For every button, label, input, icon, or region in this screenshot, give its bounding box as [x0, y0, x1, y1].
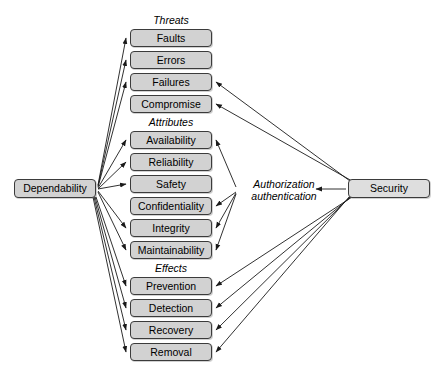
edge — [216, 197, 352, 286]
node-faults[interactable]: Faults — [130, 29, 212, 47]
edge — [98, 162, 126, 189]
group-label-threats: Threats — [130, 14, 212, 26]
edge — [216, 192, 236, 206]
node-reliability[interactable]: Reliability — [130, 153, 212, 171]
edge — [216, 194, 236, 250]
node-integrity[interactable]: Integrity — [130, 219, 212, 237]
node-failures[interactable]: Failures — [130, 73, 212, 91]
edge — [216, 197, 349, 352]
node-maintainability[interactable]: Maintainability — [130, 241, 212, 259]
edge — [98, 140, 126, 188]
node-safety[interactable]: Safety — [130, 175, 212, 193]
node-dependability[interactable]: Dependability — [14, 179, 96, 198]
node-recovery[interactable]: Recovery — [130, 321, 212, 339]
node-detection[interactable]: Detection — [130, 299, 212, 317]
edge — [95, 197, 126, 308]
edge — [94, 197, 126, 330]
edge — [98, 38, 126, 185]
edge — [216, 140, 236, 187]
node-compromise[interactable]: Compromise — [130, 95, 212, 113]
edge — [98, 82, 126, 187]
node-errors[interactable]: Errors — [130, 51, 212, 69]
edge — [98, 60, 126, 186]
hub-label-authorization-authentication: Authorization authentication — [238, 178, 330, 202]
edge — [216, 82, 350, 181]
edge — [216, 104, 352, 181]
node-confidentiality[interactable]: Confidentiality — [130, 197, 212, 215]
edge — [98, 191, 126, 228]
node-prevention[interactable]: Prevention — [130, 277, 212, 295]
edge — [216, 197, 350, 330]
group-label-attributes: Attributes — [130, 116, 212, 128]
group-label-effects: Effects — [130, 262, 212, 274]
node-removal[interactable]: Removal — [130, 343, 212, 361]
edge — [216, 197, 351, 308]
node-security[interactable]: Security — [348, 179, 430, 198]
edge — [98, 184, 126, 189]
node-availability[interactable]: Availability — [130, 131, 212, 149]
hub-label-line-1: Authorization — [238, 178, 330, 190]
edge — [96, 197, 126, 286]
diagram-canvas: Threats Faults Errors Failures Compromis… — [0, 0, 439, 366]
hub-label-line-2: authentication — [238, 190, 330, 202]
edge — [93, 197, 126, 352]
edge — [98, 192, 126, 250]
edge — [216, 193, 236, 228]
